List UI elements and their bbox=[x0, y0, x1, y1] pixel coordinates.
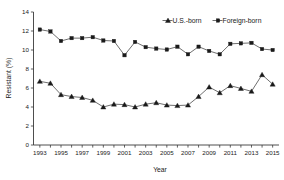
y-tick-label: 12 bbox=[22, 27, 29, 34]
x-tick-label: 1995 bbox=[54, 149, 68, 156]
x-axis-title: Year bbox=[153, 166, 167, 173]
x-tick-label: 2003 bbox=[139, 149, 153, 156]
square-marker bbox=[49, 30, 52, 33]
square-marker bbox=[123, 54, 126, 57]
x-axis: 1993199519971999200120032005200720092011… bbox=[33, 145, 280, 156]
x-tick-label: 2009 bbox=[202, 149, 216, 156]
triangle-marker bbox=[228, 83, 233, 87]
x-tick-label: 2013 bbox=[245, 149, 259, 156]
legend-label: Foreign-born bbox=[223, 17, 262, 25]
y-tick-label: 2 bbox=[26, 122, 30, 129]
square-marker bbox=[70, 36, 73, 39]
square-marker bbox=[80, 36, 83, 39]
y-tick-label: 6 bbox=[26, 84, 30, 91]
square-marker bbox=[144, 45, 147, 48]
square-marker bbox=[271, 48, 274, 51]
chart-legend: U.S.-bornForeign-born bbox=[163, 17, 262, 25]
square-marker bbox=[260, 47, 263, 50]
square-marker bbox=[112, 39, 115, 42]
triangle-marker bbox=[207, 85, 212, 89]
y-tick-label: 4 bbox=[26, 103, 30, 110]
y-axis-title: Resistant (%) bbox=[5, 58, 13, 99]
series-foreign-born bbox=[38, 28, 274, 57]
legend-item-u-s-born[interactable]: U.S.-born bbox=[163, 17, 202, 24]
square-marker bbox=[102, 39, 105, 42]
y-tick-label: 10 bbox=[22, 46, 29, 53]
square-marker bbox=[218, 53, 221, 56]
square-marker bbox=[176, 45, 179, 48]
data-series-group bbox=[37, 28, 275, 109]
x-tick-label: 2007 bbox=[181, 149, 195, 156]
y-axis: 02468101214 bbox=[22, 8, 33, 148]
triangle-marker bbox=[259, 72, 264, 76]
legend-label: U.S.-born bbox=[173, 17, 202, 24]
x-tick-label: 2015 bbox=[266, 149, 280, 156]
y-tick-label: 0 bbox=[26, 141, 30, 148]
square-marker bbox=[91, 35, 94, 38]
triangle-marker bbox=[37, 79, 42, 83]
square-marker bbox=[229, 42, 232, 45]
series-u-s-born bbox=[37, 72, 275, 109]
x-tick-label: 2005 bbox=[160, 149, 174, 156]
x-tick-label: 1993 bbox=[33, 149, 47, 156]
chart-canvas: 02468101214 1993199519971999200120032005… bbox=[0, 0, 284, 180]
x-tick-label: 1997 bbox=[75, 149, 89, 156]
square-marker bbox=[216, 19, 219, 22]
square-marker bbox=[186, 53, 189, 56]
square-marker bbox=[38, 28, 41, 31]
y-tick-label: 8 bbox=[26, 65, 30, 72]
y-tick-label: 14 bbox=[22, 8, 29, 15]
square-marker bbox=[165, 48, 168, 51]
square-marker bbox=[59, 39, 62, 42]
square-marker bbox=[197, 45, 200, 48]
square-marker bbox=[239, 42, 242, 45]
square-marker bbox=[207, 49, 210, 52]
square-marker bbox=[133, 40, 136, 43]
x-tick-label: 1999 bbox=[96, 149, 110, 156]
triangle-marker bbox=[217, 90, 222, 94]
x-tick-label: 2011 bbox=[224, 149, 238, 156]
square-marker bbox=[250, 41, 253, 44]
resistance-line-chart: 02468101214 1993199519971999200120032005… bbox=[0, 0, 284, 180]
legend-item-foreign-born[interactable]: Foreign-born bbox=[213, 17, 262, 25]
square-marker bbox=[155, 47, 158, 50]
x-tick-label: 2001 bbox=[118, 149, 132, 156]
triangle-marker bbox=[154, 100, 159, 104]
